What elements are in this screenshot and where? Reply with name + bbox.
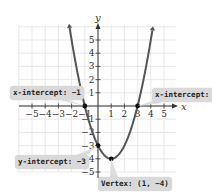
- svg-text:4: 4: [89, 48, 95, 58]
- x-axis-label: x: [181, 101, 187, 112]
- svg-text:−5: −5: [25, 109, 39, 119]
- x-intercept-right-label: x-intercept: 3: [152, 88, 212, 102]
- svg-text:−3: −3: [52, 109, 66, 119]
- svg-text:4: 4: [148, 109, 154, 119]
- y-axis-label: y: [94, 12, 101, 23]
- svg-text:2: 2: [122, 109, 128, 119]
- svg-text:5: 5: [89, 35, 95, 45]
- svg-text:−2: −2: [65, 109, 78, 119]
- svg-text:5: 5: [161, 109, 167, 119]
- svg-text:1: 1: [108, 109, 114, 119]
- svg-text:1: 1: [89, 88, 95, 98]
- vertex-label: Vertex: (1, −4): [98, 177, 172, 191]
- svg-text:2: 2: [89, 75, 95, 85]
- x-intercept-left-label: x-intercept: −1: [10, 86, 84, 100]
- svg-text:−4: −4: [39, 109, 53, 119]
- svg-text:3: 3: [89, 61, 95, 71]
- y-intercept-label: y-intercept: −3: [15, 155, 89, 169]
